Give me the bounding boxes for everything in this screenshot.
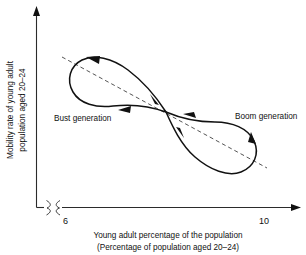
arrow-marker-right-inner-icon [176,127,184,138]
y-axis-arrow-icon [33,6,40,16]
left-lobe-bust [70,57,166,112]
annotation-boom-generation: Boom generation [235,112,298,121]
figure-container: Bust generation Boom generation 6 10 You… [0,0,306,255]
curve-direction-arrows [86,56,256,144]
annotation-bust-generation: Bust generation [54,114,112,123]
x-axis-title-line1: Young adult percentage of the population [93,231,242,240]
y-axis-title-line1: Mobility rate of young adult [6,60,15,159]
x-axis-title-line2: (Percentage of population aged 20–24) [97,243,239,252]
x-tick-label-10: 10 [259,216,269,226]
x-tick-label-6: 6 [63,216,68,226]
right-lobe-boom [166,112,256,174]
arrow-marker-right-top-icon [183,112,196,118]
arrow-marker-left-bottom-icon [118,106,131,113]
x-axis-arrow-icon [291,204,301,211]
axis-break-mark-right-icon [56,201,60,216]
arrow-marker-left-top-icon [86,56,100,64]
scatter-figure: Bust generation Boom generation 6 10 You… [0,0,306,255]
axis-group [33,6,301,215]
axis-break-mark-left-icon [47,201,51,216]
y-axis-title-line2: population aged 20–24 [18,68,27,152]
